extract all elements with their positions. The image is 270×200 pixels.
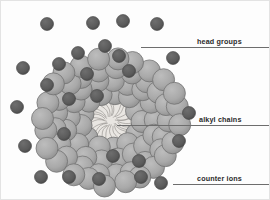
leader-line-head-groups bbox=[141, 47, 269, 48]
label-counter-ions: counter ions bbox=[197, 175, 242, 182]
label-alkyl-chains: alkyl chains bbox=[199, 116, 242, 123]
label-head-groups: head groups bbox=[197, 38, 242, 45]
micelle-illustration bbox=[1, 1, 270, 200]
micelle-diagram-figure: head groups alkyl chains counter ions bbox=[0, 0, 270, 200]
leader-line-alkyl-chains bbox=[117, 125, 269, 126]
leader-line-counter-ions bbox=[173, 184, 269, 185]
